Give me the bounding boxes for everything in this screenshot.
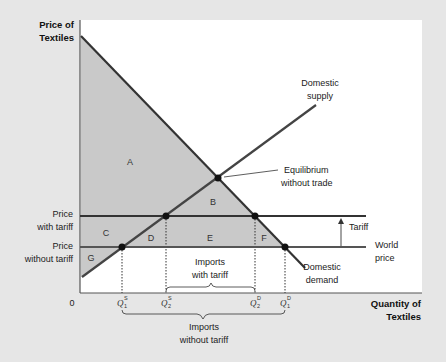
- imports-without-tariff-label-2: without tariff: [179, 335, 229, 345]
- equilibrium-label-1: Equilibrium: [284, 165, 329, 175]
- q1d-label: Q D 1: [280, 295, 291, 309]
- imports-with-tariff-label-2: with tariff: [191, 270, 228, 280]
- origin-label: 0: [69, 298, 74, 308]
- q2d-label: Q D 2: [250, 295, 261, 309]
- point-q1s: [119, 244, 126, 251]
- q2s-label: Q S 2: [161, 295, 172, 309]
- svg-text:2: 2: [257, 303, 260, 309]
- price-without-tariff-label-2: without tariff: [24, 254, 74, 264]
- demand-label-1: Domestic: [303, 262, 341, 272]
- region-f-label: F: [261, 233, 267, 243]
- supply-label-1: Domestic: [301, 78, 339, 88]
- demand-label-2: demand: [306, 275, 339, 285]
- price-without-tariff-label-1: Price: [52, 241, 73, 251]
- region-c-label: C: [103, 228, 110, 238]
- world-price-label-1: World: [375, 240, 398, 250]
- region-g-label: G: [87, 253, 94, 263]
- tariff-diagram: Price of Textiles Quantity of Textiles 0…: [0, 0, 446, 362]
- x-axis-label-2: Textiles: [386, 311, 421, 322]
- region-e-label: E: [207, 233, 213, 243]
- svg-text:2: 2: [168, 303, 171, 309]
- supply-label-2: supply: [307, 91, 334, 101]
- region-b-label: B: [210, 197, 216, 207]
- imports-with-tariff-label-1: Imports: [195, 257, 226, 267]
- price-with-tariff-label-2: with tariff: [36, 222, 73, 232]
- equilibrium-point: [215, 175, 222, 182]
- point-q2d: [252, 213, 259, 220]
- imports-without-tariff-brace: [122, 310, 285, 319]
- svg-text:Q: Q: [117, 298, 124, 308]
- region-d-label: D: [148, 233, 155, 243]
- y-axis-label-2: Textiles: [39, 32, 74, 43]
- svg-text:Q: Q: [161, 298, 168, 308]
- svg-text:D: D: [287, 295, 291, 301]
- equilibrium-label-2: without trade: [280, 178, 333, 188]
- svg-text:S: S: [124, 295, 128, 301]
- price-with-tariff-label-1: Price: [52, 209, 73, 219]
- region-a-label: A: [127, 157, 133, 167]
- svg-text:Q: Q: [280, 298, 287, 308]
- svg-text:1: 1: [124, 303, 127, 309]
- svg-text:Q: Q: [250, 298, 257, 308]
- svg-text:1: 1: [287, 303, 290, 309]
- tariff-label: Tariff: [349, 222, 369, 232]
- point-q1d: [282, 244, 289, 251]
- imports-without-tariff-label-1: Imports: [189, 322, 220, 332]
- world-price-label-2: price: [375, 253, 395, 263]
- q1s-label: Q S 1: [117, 295, 128, 309]
- svg-text:D: D: [257, 295, 261, 301]
- x-axis-label-1: Quantity of: [371, 298, 422, 309]
- y-axis-label-1: Price of: [39, 19, 75, 30]
- point-q2s: [163, 213, 170, 220]
- svg-text:S: S: [168, 295, 172, 301]
